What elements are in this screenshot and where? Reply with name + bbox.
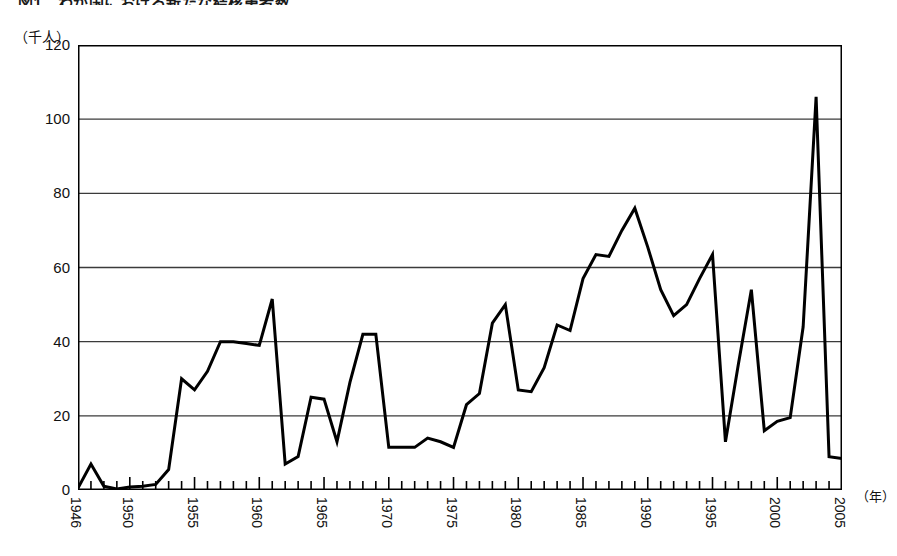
- x-axis-tick-label: 1970: [379, 497, 395, 528]
- x-axis-unit-label: （年）: [856, 486, 895, 505]
- x-axis-tick-label: 1975: [444, 497, 460, 528]
- y-axis-tick-label: 100: [12, 110, 70, 127]
- y-axis-tick-label: 20: [12, 407, 70, 424]
- y-axis-tick-label: 60: [12, 259, 70, 276]
- data-series-line: [78, 97, 842, 489]
- y-axis-tick-label: 120: [12, 36, 70, 53]
- x-axis-tick-label: 1980: [508, 497, 524, 528]
- x-axis-tick-label: 1960: [249, 497, 265, 528]
- figure-title: 図1 わが国における新たな結核患者数: [18, 0, 290, 5]
- x-axis-tick-label: 1950: [120, 497, 136, 528]
- x-axis-tick-label: 2000: [767, 497, 783, 528]
- x-axis-tick-label: 1965: [314, 497, 330, 528]
- x-axis-tick-label: 1955: [185, 497, 201, 528]
- gridlines: [78, 119, 842, 416]
- x-axis-tick-label: 1985: [573, 497, 589, 528]
- y-axis-tick-label: 0: [12, 481, 70, 498]
- x-axis-tick-marks: [78, 477, 842, 490]
- x-axis-tick-label: 1946: [68, 497, 84, 528]
- figure-root: 図1 わが国における新たな結核患者数 （千人） （年） 020406080100…: [0, 0, 897, 556]
- y-axis-tick-label: 40: [12, 333, 70, 350]
- x-axis-tick-label: 2005: [832, 497, 848, 528]
- plot-area: [78, 45, 842, 490]
- line-chart-svg: [78, 45, 842, 490]
- y-axis-tick-label: 80: [12, 184, 70, 201]
- x-axis-tick-label: 1995: [703, 497, 719, 528]
- x-axis-tick-label: 1990: [638, 497, 654, 528]
